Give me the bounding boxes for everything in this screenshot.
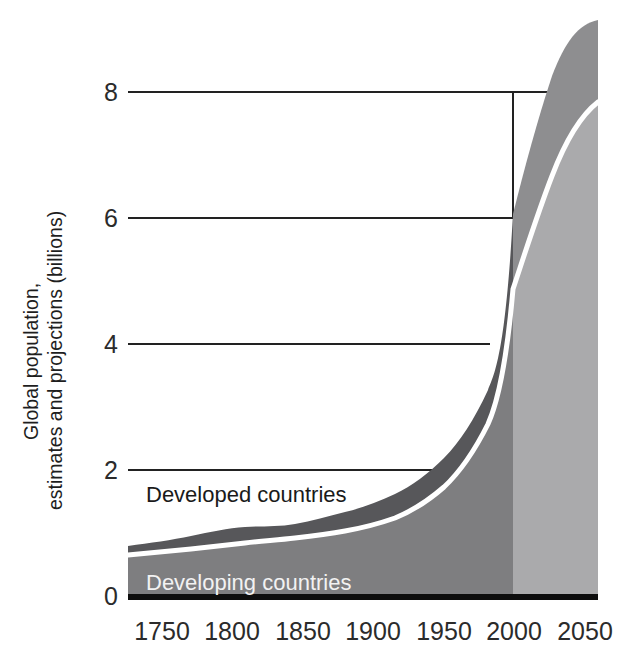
x-tick-2000: 2000 — [486, 617, 542, 645]
chart-canvas: Global population, estimates and project… — [0, 0, 627, 660]
y-tick-2: 2 — [104, 456, 118, 484]
y-tick-8: 8 — [104, 78, 118, 106]
y-tick-6: 6 — [104, 204, 118, 232]
y-tick-0: 0 — [104, 582, 118, 610]
series-label-developing: Developing countries — [146, 570, 351, 595]
population-area-chart: Global population, estimates and project… — [0, 0, 627, 660]
x-tick-1750: 1750 — [134, 617, 190, 645]
x-tick-labels: 1750 1800 1850 1900 1950 2000 2050 — [134, 617, 613, 645]
x-tick-1950: 1950 — [416, 617, 472, 645]
x-tick-2050: 2050 — [557, 617, 613, 645]
series-label-developed: Developed countries — [146, 482, 347, 507]
y-tick-4: 4 — [104, 330, 118, 358]
x-tick-1800: 1800 — [204, 617, 260, 645]
y-axis-title-line1: Global population, — [20, 283, 42, 440]
y-axis-title-line2: estimates and projections (billions) — [44, 211, 66, 510]
x-tick-1850: 1850 — [275, 617, 331, 645]
x-tick-1900: 1900 — [345, 617, 401, 645]
